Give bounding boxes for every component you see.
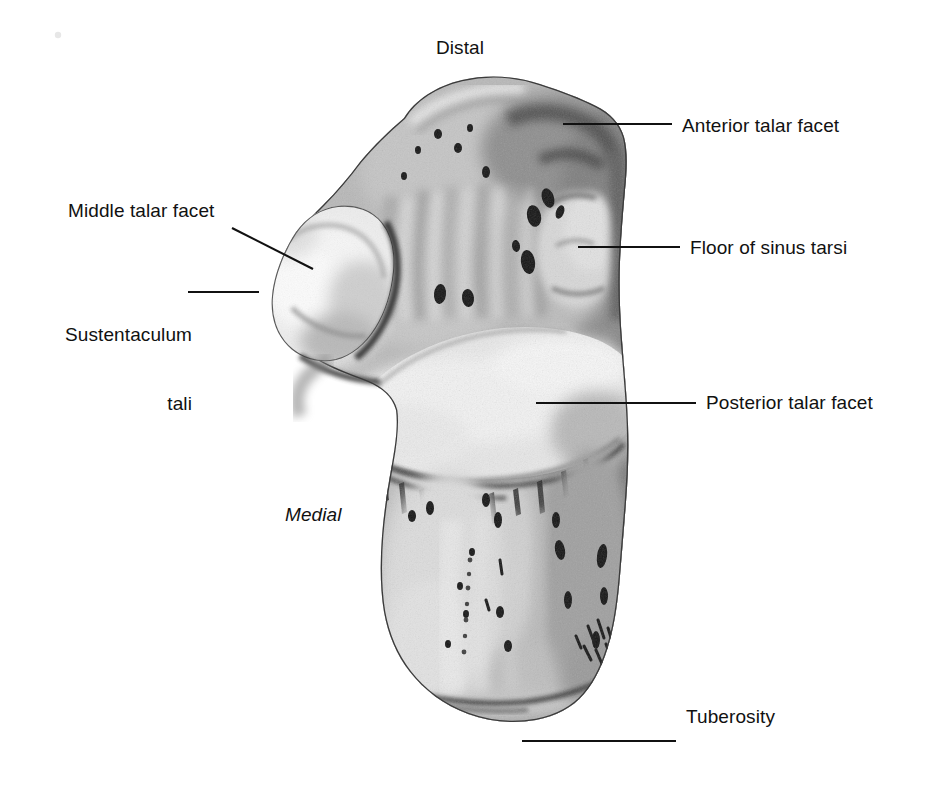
annotation-label-anterior-talar-facet: Anterior talar facet bbox=[682, 114, 839, 137]
annotation-label-floor-of-sinus-tarsi: Floor of sinus tarsi bbox=[690, 236, 847, 259]
annotation-label-tuberosity: Tuberosity bbox=[686, 705, 775, 728]
sustentaculum-tali-line-2: tali bbox=[42, 392, 192, 415]
orientation-label-medial: Medial bbox=[285, 503, 342, 526]
annotation-label-middle-talar-facet: Middle talar facet bbox=[68, 199, 214, 222]
page-speck bbox=[55, 32, 61, 38]
annotation-label-posterior-talar-facet: Posterior talar facet bbox=[706, 391, 873, 414]
annotation-label-sustentaculum-tali: Sustentaculum tali bbox=[42, 277, 192, 438]
sustentaculum-tali-line-1: Sustentaculum bbox=[42, 323, 192, 346]
orientation-label-distal: Distal bbox=[370, 36, 550, 59]
